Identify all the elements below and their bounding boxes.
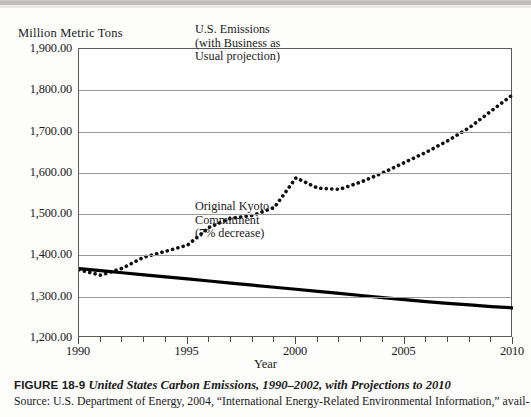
caption-title: United States Carbon Emissions, 1990–200…: [88, 378, 450, 392]
series-layer: [79, 49, 513, 338]
annotation-kyoto-line: Commitment: [195, 214, 269, 228]
annotation-us-emissions-line: (with Business as: [195, 37, 280, 51]
series-line: [79, 94, 513, 275]
y-axis-tick-labels: 1,200.001,300.001,400.001,500.001,600.00…: [6, 48, 72, 337]
x-axis-tick: [425, 337, 426, 342]
x-axis-tick: [469, 337, 470, 342]
y-axis-tick-label: 1,800.00: [30, 82, 72, 97]
x-axis-title: Year: [0, 357, 531, 372]
x-axis-tick: [338, 337, 339, 342]
x-axis-tick: [382, 337, 383, 342]
x-axis-tick: [165, 337, 166, 342]
annotation-kyoto-line: Original Kyoto: [195, 200, 269, 214]
gridline: [79, 255, 511, 256]
x-axis-tick: [273, 337, 274, 342]
y-axis-tick-label: 1,500.00: [30, 206, 72, 221]
x-axis-tick: [100, 337, 101, 342]
gridline: [79, 297, 511, 298]
y-axis-tick-label: 1,200.00: [30, 330, 72, 345]
x-axis-tick: [360, 337, 361, 342]
plot-area: [78, 48, 512, 337]
figure-page: Million Metric Tons 1,200.001,300.001,40…: [0, 0, 531, 417]
x-axis-tick: [252, 337, 253, 342]
x-axis-tick: [143, 337, 144, 342]
gridline: [79, 214, 511, 215]
y-axis-tick-label: 1,300.00: [30, 288, 72, 303]
caption-figure-number: FIGURE 18-9: [14, 378, 85, 391]
gridline: [79, 90, 511, 91]
y-axis-tick-label: 1,600.00: [30, 164, 72, 179]
caption-headline: FIGURE 18-9 United States Carbon Emissio…: [14, 377, 524, 393]
x-axis-tick: [121, 337, 122, 342]
x-axis-tick: [187, 337, 188, 344]
y-axis-title: Million Metric Tons: [18, 26, 123, 41]
y-axis-tick-label: 1,700.00: [30, 123, 72, 138]
annotation-kyoto-commitment: Original KyotoCommitment(7% decrease): [195, 200, 269, 241]
gridline: [79, 173, 511, 174]
annotation-us-emissions-line: Usual projection): [195, 50, 280, 64]
caption-source: Source: U.S. Department of Energy, 2004,…: [14, 394, 524, 409]
x-axis-tick: [208, 337, 209, 342]
x-axis-tick: [230, 337, 231, 342]
x-axis-tick: [512, 337, 513, 344]
annotation-kyoto-line: (7% decrease): [195, 227, 269, 241]
figure-caption: FIGURE 18-9 United States Carbon Emissio…: [14, 377, 524, 409]
y-axis-tick-label: 1,400.00: [30, 247, 72, 262]
x-axis-tick: [78, 337, 79, 344]
series-line: [79, 269, 513, 308]
scan-artifact-bar-light: [0, 5, 531, 8]
x-axis-tick: [317, 337, 318, 342]
gridline: [79, 132, 511, 133]
annotation-us-emissions-line: U.S. Emissions: [195, 23, 280, 37]
x-axis-tick: [295, 337, 296, 344]
x-axis-tick: [447, 337, 448, 342]
x-axis-tick: [490, 337, 491, 342]
y-axis-tick-label: 1,900.00: [30, 41, 72, 56]
annotation-us-emissions: U.S. Emissions(with Business asUsual pro…: [195, 23, 280, 64]
x-axis-tick: [404, 337, 405, 344]
